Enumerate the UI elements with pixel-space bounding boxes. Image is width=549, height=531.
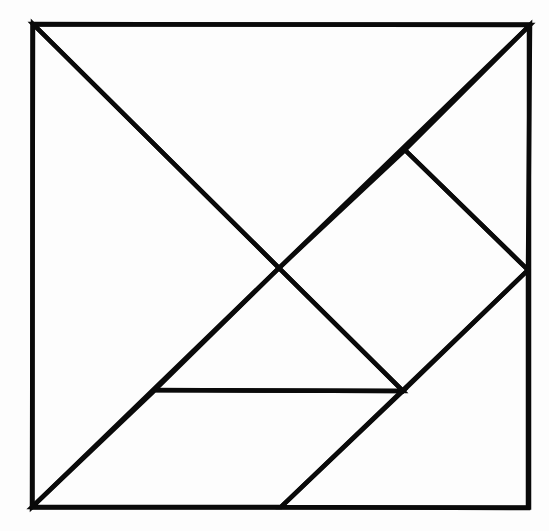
square-piece bbox=[279, 150, 528, 391]
large-triangle-left bbox=[32, 24, 279, 507]
parallelogram-piece bbox=[32, 390, 403, 507]
small-triangle-middle bbox=[155, 268, 403, 391]
large-triangle-top bbox=[33, 24, 530, 268]
tangram-diagram bbox=[0, 0, 549, 531]
medium-triangle-corner bbox=[405, 25, 530, 270]
tangram-figure bbox=[0, 0, 549, 531]
